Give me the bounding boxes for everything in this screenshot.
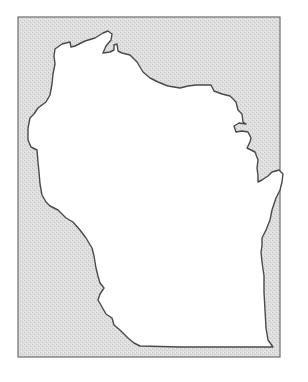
- map-canvas: [0, 0, 308, 382]
- map-figure: [0, 0, 308, 382]
